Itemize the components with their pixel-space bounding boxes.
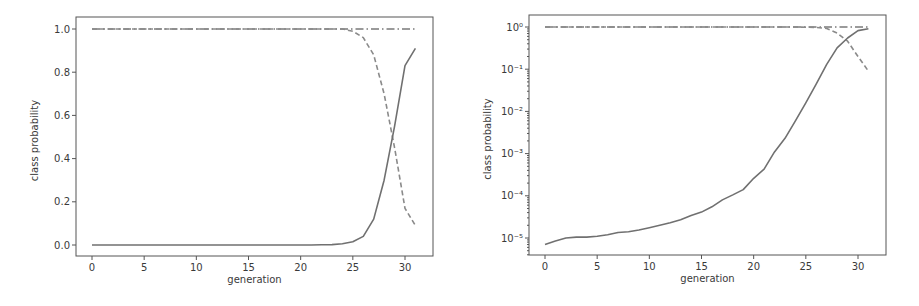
x-tick-label: 10 <box>190 262 203 273</box>
y-tick-label: 0.6 <box>54 110 70 121</box>
plot-area-frame <box>529 15 886 255</box>
y-axis-label: class probability <box>29 100 40 181</box>
log-scale-chart: 05101520253010⁻⁵10⁻⁴10⁻³10⁻²10⁻¹10⁰gener… <box>482 15 886 284</box>
y-tick-label: 10⁰ <box>506 22 523 33</box>
y-tick-label: 10⁻³ <box>501 148 523 159</box>
series-line-dashed <box>92 29 415 226</box>
x-tick-label: 0 <box>89 262 95 273</box>
y-tick-label: 0.4 <box>54 153 70 164</box>
x-tick-label: 10 <box>643 261 656 272</box>
series-line-dashed <box>545 27 868 71</box>
linear-scale-chart: 0510152025300.00.20.40.60.81.0generation… <box>29 17 433 285</box>
x-tick-label: 15 <box>242 262 255 273</box>
x-tick-label: 5 <box>141 262 147 273</box>
y-tick-label: 0.8 <box>54 67 70 78</box>
x-tick-label: 25 <box>799 261 812 272</box>
x-tick-label: 20 <box>747 261 760 272</box>
x-tick-label: 20 <box>294 262 307 273</box>
x-tick-label: 30 <box>852 261 865 272</box>
x-tick-label: 15 <box>695 261 708 272</box>
y-tick-label: 10⁻⁵ <box>501 233 523 244</box>
x-tick-label: 0 <box>542 261 548 272</box>
plot-area-frame <box>76 17 433 256</box>
x-axis-label: generation <box>680 273 734 284</box>
x-tick-label: 25 <box>346 262 359 273</box>
x-axis-label: generation <box>227 274 281 285</box>
x-tick-label: 30 <box>399 262 412 273</box>
series-line-solid <box>92 48 415 245</box>
x-tick-label: 5 <box>594 261 600 272</box>
y-tick-label: 0.0 <box>54 240 70 251</box>
y-tick-label: 10⁻² <box>501 106 523 117</box>
y-tick-label: 0.2 <box>54 196 70 207</box>
y-tick-label: 10⁻⁴ <box>501 190 523 201</box>
y-tick-label: 1.0 <box>54 24 70 35</box>
y-tick-label: 10⁻¹ <box>501 64 523 75</box>
figure-canvas: 0510152025300.00.20.40.60.81.0generation… <box>0 0 919 306</box>
y-axis-label: class probability <box>482 98 493 179</box>
series-line-solid <box>545 29 868 245</box>
